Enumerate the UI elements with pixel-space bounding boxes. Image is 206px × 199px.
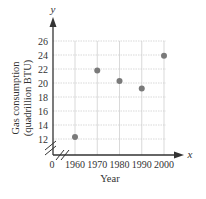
axes [45,17,184,160]
y-tick-label: 12 [38,134,48,145]
scatter-chart: 1214161820222426 19601970198019902000 y … [0,0,206,199]
y-tick-label: 18 [38,92,48,103]
x-axis-label: Year [100,173,120,184]
x-tick-label: 1970 [87,159,107,170]
y-tick-label: 14 [38,120,48,131]
axis-break-icon [45,141,69,160]
x-tick-label: 1960 [65,159,85,170]
x-tick-labels: 19601970198019902000 [65,159,174,170]
x-axis-arrow-icon [174,152,184,159]
data-point [94,67,100,73]
data-point [161,53,167,59]
y-axis-arrow-icon [50,17,57,27]
data-point [139,86,145,92]
y-axis-variable: y [50,3,56,15]
data-point [72,134,78,140]
x-tick-label: 1980 [110,159,130,170]
y-tick-label: 20 [38,78,48,89]
y-axis-label-line2: (quadrillion BTU) [22,59,34,136]
data-point [117,78,123,84]
y-tick-label: 16 [38,106,48,117]
origin-label: 0 [50,159,55,170]
grid-lines [53,41,166,155]
y-axis-label-line1: Gas consumption [10,61,21,135]
y-tick-label: 24 [38,50,48,61]
x-tick-label: 2000 [154,159,174,170]
x-axis-variable: x [187,148,193,160]
y-tick-label: 22 [38,64,48,75]
y-tick-labels: 1214161820222426 [38,36,48,145]
x-tick-label: 1990 [132,159,152,170]
y-tick-label: 26 [38,36,48,47]
